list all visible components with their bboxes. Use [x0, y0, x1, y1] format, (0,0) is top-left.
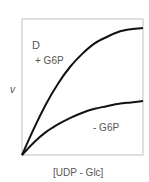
plot-frame [22, 19, 143, 155]
x-axis-label: [UDP - Glc] [53, 167, 104, 178]
minus-g6p-label: - G6P [93, 122, 119, 133]
curve-minus-g6p [22, 101, 143, 155]
chart-canvas: D + G6P - G6P v [UDP - Glc] [0, 0, 149, 182]
panel-label: D [32, 39, 40, 51]
plus-g6p-label: + G6P [35, 55, 64, 66]
y-axis-label: v [10, 84, 16, 95]
